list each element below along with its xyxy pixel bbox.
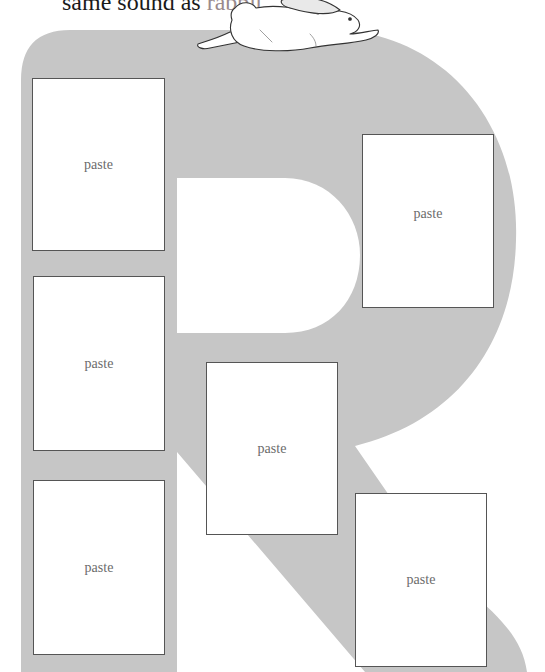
paste-box-center[interactable]: paste [206,362,338,535]
paste-box-stem-top[interactable]: paste [32,78,165,251]
paste-box-bowl-right[interactable]: paste [362,134,494,308]
paste-box-stem-bottom[interactable]: paste [33,480,165,655]
paste-label: paste [85,356,114,372]
paste-label: paste [84,157,113,173]
paste-label: paste [414,206,443,222]
paste-label: paste [258,441,287,457]
paste-box-leg[interactable]: paste [355,493,487,667]
paste-label: paste [85,560,114,576]
worksheet-page: same sound as rabbit. paste paste paste [0,0,545,672]
paste-label: paste [407,572,436,588]
paste-box-stem-middle[interactable]: paste [33,276,165,451]
rabbit-illustration [190,0,385,58]
